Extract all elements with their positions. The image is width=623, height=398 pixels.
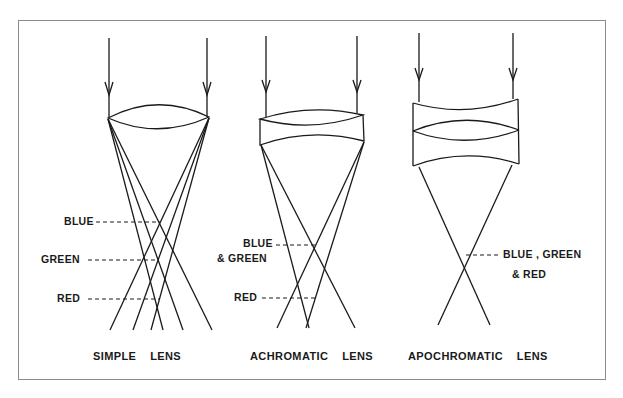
achromatic-lens-caption: ACHROMATIC LENS <box>250 350 373 362</box>
achromatic-blue-focus-label: BLUE <box>243 237 273 249</box>
achromatic-red-focus-label: RED <box>234 291 257 303</box>
lens-diagram <box>0 0 623 398</box>
simple-lens-caption: SIMPLE LENS <box>93 350 181 362</box>
biconvex-lens <box>108 105 209 129</box>
apochromatic-focus-label-line1: BLUE , GREEN <box>503 248 581 260</box>
simple-lens-group <box>88 38 212 330</box>
achromatic-lens-group <box>260 36 364 328</box>
apochromatic-lens-group <box>413 33 519 325</box>
simple-red-focus-label: RED <box>57 292 80 304</box>
simple-green-focus-label: GREEN <box>41 253 80 265</box>
apochromatic-lens-caption: APOCHROMATIC LENS <box>408 350 548 362</box>
crown-element <box>260 110 363 125</box>
achromatic-green-focus-label: & GREEN <box>217 252 267 264</box>
simple-blue-focus-label: BLUE <box>64 215 94 227</box>
top-surface <box>413 99 518 110</box>
apochromatic-focus-label-line2: & RED <box>512 268 546 280</box>
